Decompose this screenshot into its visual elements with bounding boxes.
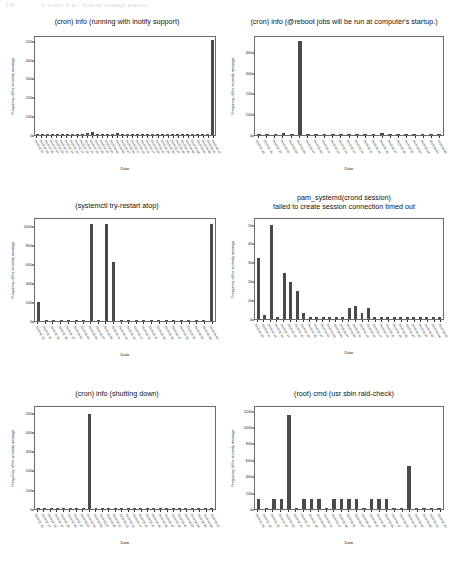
bar-slot <box>369 37 377 135</box>
x-tick-mark <box>324 136 325 138</box>
bar <box>60 320 63 321</box>
bar <box>191 508 194 509</box>
bar <box>45 320 48 321</box>
bar-slot <box>390 407 398 509</box>
chart-title: (cron) info (@reboot jobs will be run at… <box>228 18 460 27</box>
x-axis-label: Date <box>34 166 216 171</box>
y-axis-ticks: 0100200300400 <box>238 36 254 136</box>
x-tick-mark <box>97 136 98 138</box>
bar-slot <box>428 407 436 509</box>
bar-slot <box>35 219 43 321</box>
bar-slot <box>353 407 361 509</box>
x-tick-mark <box>401 320 402 322</box>
bar <box>296 291 299 319</box>
bar <box>156 134 158 135</box>
x-tick-mark <box>83 322 84 324</box>
bar <box>380 317 383 319</box>
y-axis-label: Frequency of the anomaly message <box>8 36 17 136</box>
bar-slot <box>405 407 413 509</box>
bar-slot <box>413 407 421 509</box>
bar <box>101 508 104 509</box>
bar <box>274 134 278 135</box>
bar-slot <box>210 37 215 135</box>
bar-slot <box>293 407 301 509</box>
bar <box>176 134 178 135</box>
bar <box>76 134 78 135</box>
x-tick-mark <box>357 136 358 138</box>
x-tick-mark <box>60 322 61 324</box>
x-tick-mark <box>76 510 77 512</box>
bar <box>295 508 298 509</box>
bar-slot <box>58 219 66 321</box>
chart-panel-pam-systemd-crond: pam_systemd(crond session)failed to crea… <box>228 194 460 382</box>
bar <box>82 320 85 321</box>
bar <box>37 508 40 509</box>
x-tick-mark <box>143 322 144 324</box>
chart-panel-cron-reboot: (cron) info (@reboot jobs will be run at… <box>228 18 460 193</box>
bar <box>184 508 187 509</box>
bar <box>131 134 133 135</box>
bar-slot <box>193 219 201 321</box>
bar <box>157 320 160 321</box>
bar <box>126 134 128 135</box>
y-axis-label: Frequency of the anomaly message <box>228 218 237 320</box>
bar <box>51 134 53 135</box>
bar <box>363 134 367 135</box>
bar-series <box>35 407 215 509</box>
bar <box>335 317 338 319</box>
bar <box>90 224 93 321</box>
bar-slot <box>361 37 369 135</box>
bar <box>422 508 425 509</box>
bar <box>37 302 40 321</box>
bar <box>161 134 163 135</box>
bar <box>257 258 260 319</box>
bar <box>386 317 389 319</box>
x-tick-mark <box>102 136 103 138</box>
x-tick-mark <box>417 510 418 512</box>
y-axis-label-text: Frequency of the anomaly message <box>231 429 235 486</box>
bar-slot <box>170 219 178 321</box>
bar <box>361 313 364 319</box>
x-tick-mark <box>379 510 380 512</box>
bar-slot <box>65 219 73 321</box>
x-tick-mark <box>423 136 424 138</box>
x-tick-mark <box>142 136 143 138</box>
bar <box>309 317 312 319</box>
bar <box>396 134 400 135</box>
bar <box>421 134 425 135</box>
bar <box>276 317 279 319</box>
x-tick-mark <box>329 320 330 322</box>
bar-slot <box>50 219 58 321</box>
bar-slot <box>378 37 386 135</box>
x-tick-mark <box>356 510 357 512</box>
chart-title: pam_systemd(crond session)failed to crea… <box>228 194 460 211</box>
bar <box>116 133 118 135</box>
chart-panel-systemctl-try-restart-atop: (systemctl try-restart atop)Frequency of… <box>8 202 226 382</box>
bar <box>150 320 153 321</box>
bar <box>263 315 266 319</box>
bar <box>432 317 435 319</box>
chart-panel-cron-shutting-down: (cron) info (shutting down)Frequency of … <box>8 390 226 567</box>
bar <box>211 40 213 135</box>
y-axis-ticks: 02004006008001000 <box>18 218 34 322</box>
plot-area <box>254 36 444 136</box>
bar <box>355 134 359 135</box>
y-axis-ticks: 01020304050 <box>238 218 254 320</box>
plot-area <box>254 406 444 510</box>
bar <box>270 225 273 319</box>
bar <box>287 415 290 509</box>
bar-slot <box>402 37 410 135</box>
bar-slot <box>271 37 279 135</box>
bar <box>339 134 343 135</box>
chart-panel-cron-inotify: (cron) info (running with inotify suppor… <box>8 18 226 193</box>
x-tick-mark <box>335 320 336 322</box>
bar <box>404 134 408 135</box>
bar-slot <box>255 407 263 509</box>
bar <box>165 508 168 509</box>
bar-slot <box>185 219 193 321</box>
bar <box>328 317 331 319</box>
bar <box>302 313 305 319</box>
bar <box>41 134 43 135</box>
bar <box>101 134 103 135</box>
page-number: 146 <box>6 2 40 8</box>
